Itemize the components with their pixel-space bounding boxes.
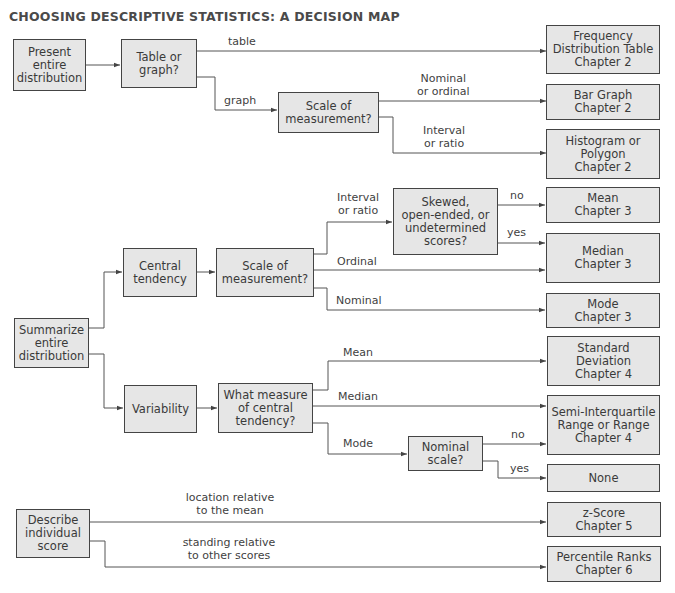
node-bar-graph: Bar Graph Chapter 2	[546, 84, 660, 120]
node-present-distribution: Present entire distribution	[13, 39, 86, 91]
edge-label-graph: graph	[224, 95, 256, 108]
node-nominal-scale: Nominal scale?	[408, 436, 483, 471]
node-scale-of-measurement-1: Scale of measurement?	[278, 92, 379, 133]
edge-label-no-1: no	[510, 190, 524, 203]
edge-label-ordinal: Ordinal	[337, 256, 377, 269]
edge-label-no-2: no	[511, 429, 525, 442]
edge-label-nominal: Nominal	[336, 295, 382, 308]
node-mean: Mean Chapter 3	[546, 187, 660, 223]
node-z-score: z-Score Chapter 5	[547, 502, 661, 537]
node-frequency-distribution-table: Frequency Distribution Table Chapter 2	[546, 25, 660, 74]
node-what-measure-central-tendency: What measure of central tendency?	[218, 383, 313, 433]
edge-label-nominal-or-ordinal: Nominal or ordinal	[417, 73, 470, 98]
node-variability: Variability	[124, 385, 197, 433]
edge-label-yes-1: yes	[507, 227, 526, 240]
edge-label-location-relative: location relative to the mean	[162, 492, 298, 517]
node-table-or-graph: Table or graph?	[121, 39, 197, 88]
node-percentile-ranks: Percentile Ranks Chapter 6	[547, 546, 661, 582]
edge-label-yes-2: yes	[510, 463, 529, 476]
node-central-tendency: Central tendency	[123, 248, 197, 297]
node-describe-individual-score: Describe individual score	[16, 509, 90, 558]
node-semi-interquartile-range: Semi-Interquartile Range or Range Chapte…	[547, 395, 660, 455]
node-mode: Mode Chapter 3	[546, 293, 660, 328]
edge-label-table: table	[228, 36, 256, 49]
node-scale-of-measurement-2: Scale of measurement?	[216, 248, 314, 297]
node-summarize-distribution: Summarize entire distribution	[14, 318, 89, 368]
node-median: Median Chapter 3	[546, 233, 660, 283]
edge-label-interval-or-ratio-2: Interval or ratio	[337, 192, 379, 217]
edge-label-interval-or-ratio-1: Interval or ratio	[423, 125, 465, 150]
node-skewed-scores: Skewed, open-ended, or undetermined scor…	[393, 188, 498, 255]
node-standard-deviation: Standard Deviation Chapter 4	[547, 336, 660, 386]
node-none: None	[547, 464, 660, 492]
edge-label-median: Median	[338, 391, 378, 404]
edge-label-standing-relative: standing relative to other scores	[160, 537, 298, 562]
edge-label-mean: Mean	[343, 347, 373, 360]
edge-label-mode: Mode	[343, 438, 373, 451]
node-histogram-polygon: Histogram or Polygon Chapter 2	[546, 129, 660, 179]
